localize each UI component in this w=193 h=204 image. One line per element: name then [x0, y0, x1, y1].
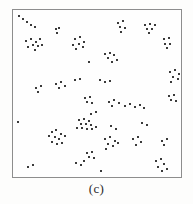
scatter-point — [91, 128, 93, 130]
scatter-point — [95, 111, 97, 113]
scatter-point — [88, 120, 90, 122]
scatter-point — [74, 38, 76, 40]
scatter-point — [104, 53, 106, 55]
scatter-point — [84, 97, 86, 99]
scatter-point — [149, 23, 151, 25]
scatter-point — [64, 85, 66, 87]
scatter-figure: (c) — [0, 0, 193, 204]
scatter-point — [75, 48, 77, 50]
scatter-point — [135, 144, 137, 146]
scatter-point — [100, 170, 102, 172]
scatter-point — [79, 78, 81, 80]
scatter-point — [51, 141, 53, 143]
scatter-point — [95, 126, 97, 128]
scatter-point — [99, 79, 101, 81]
scatter-point — [107, 143, 109, 145]
scatter-point — [118, 102, 120, 104]
scatter-point — [117, 142, 119, 144]
scatter-point — [111, 105, 113, 107]
scatter-point — [85, 123, 87, 125]
scatter-point — [164, 43, 166, 45]
scatter-point — [117, 22, 119, 24]
figure-caption: (c) — [0, 181, 193, 197]
scatter-point — [109, 52, 111, 54]
scatter-point — [81, 127, 83, 129]
scatter-point — [88, 156, 90, 158]
scatter-point — [178, 73, 180, 75]
scatter-point — [114, 140, 116, 142]
scatter-point — [17, 121, 19, 123]
scatter-point — [55, 83, 57, 85]
scatter-point — [83, 118, 85, 120]
scatter-point — [32, 164, 34, 166]
scatter-point — [74, 79, 76, 81]
scatter-point — [157, 166, 159, 168]
scatter-point — [134, 106, 136, 108]
scatter-point — [115, 128, 117, 130]
scatter-point — [56, 143, 58, 145]
scatter-point — [155, 160, 157, 162]
scatter-point — [91, 151, 93, 153]
scatter-point — [163, 38, 165, 40]
scatter-point — [109, 136, 111, 138]
scatter-point — [163, 144, 165, 146]
scatter-point — [148, 32, 150, 34]
scatter-point — [58, 87, 60, 89]
scatter-point — [39, 38, 41, 40]
scatter-point — [56, 32, 58, 34]
scatter-point — [83, 41, 85, 43]
scatter-point — [163, 163, 165, 165]
scatter-point — [120, 31, 122, 33]
scatter-point — [124, 105, 126, 107]
scatter-point — [146, 28, 148, 30]
scatter-point — [60, 133, 62, 135]
scatter-point — [41, 44, 43, 46]
scatter-point — [75, 162, 77, 164]
scatter-point — [169, 71, 171, 73]
scatter-point — [108, 101, 110, 103]
scatter-point — [112, 145, 114, 147]
scatter-point — [86, 128, 88, 130]
scatter-point — [161, 170, 163, 172]
scatter-point — [54, 136, 56, 138]
scatter-point — [89, 96, 91, 98]
scatter-point — [83, 160, 85, 162]
scatter-point — [151, 28, 153, 30]
scatter-point — [37, 45, 39, 47]
scatter-point — [61, 142, 63, 144]
scatter-point — [161, 140, 163, 142]
scatter-point — [25, 40, 27, 42]
scatter-point — [166, 168, 168, 170]
scatter-point — [143, 107, 145, 109]
scatter-point — [116, 59, 118, 61]
scatter-point — [177, 78, 179, 80]
scatter-point — [51, 131, 53, 133]
scatter-point — [78, 43, 80, 45]
scatter-point — [58, 138, 60, 140]
scatter-point — [144, 24, 146, 26]
scatter-point — [168, 37, 170, 39]
scatter-point — [80, 123, 82, 125]
scatter-point — [79, 36, 81, 38]
scatter-point — [172, 76, 174, 78]
scatter-point — [170, 99, 172, 101]
scatter-point — [113, 54, 115, 56]
scatter-point — [174, 69, 176, 71]
scatter-point — [30, 38, 32, 40]
scatter-point — [124, 27, 126, 29]
scatter-point — [119, 26, 121, 28]
scatter-point — [78, 119, 80, 121]
scatter-point — [170, 81, 172, 83]
scatter-point — [141, 122, 143, 124]
scatter-point — [175, 100, 177, 102]
scatter-point — [64, 135, 66, 137]
scatter-point — [55, 28, 57, 30]
scatter-point — [22, 18, 24, 20]
scatter-point — [26, 21, 28, 23]
scatter-points-layer — [13, 10, 181, 177]
scatter-point — [107, 57, 109, 59]
scatter-point — [110, 125, 112, 127]
scatter-point — [146, 124, 148, 126]
scatter-point — [90, 124, 92, 126]
scatter-point — [82, 46, 84, 48]
